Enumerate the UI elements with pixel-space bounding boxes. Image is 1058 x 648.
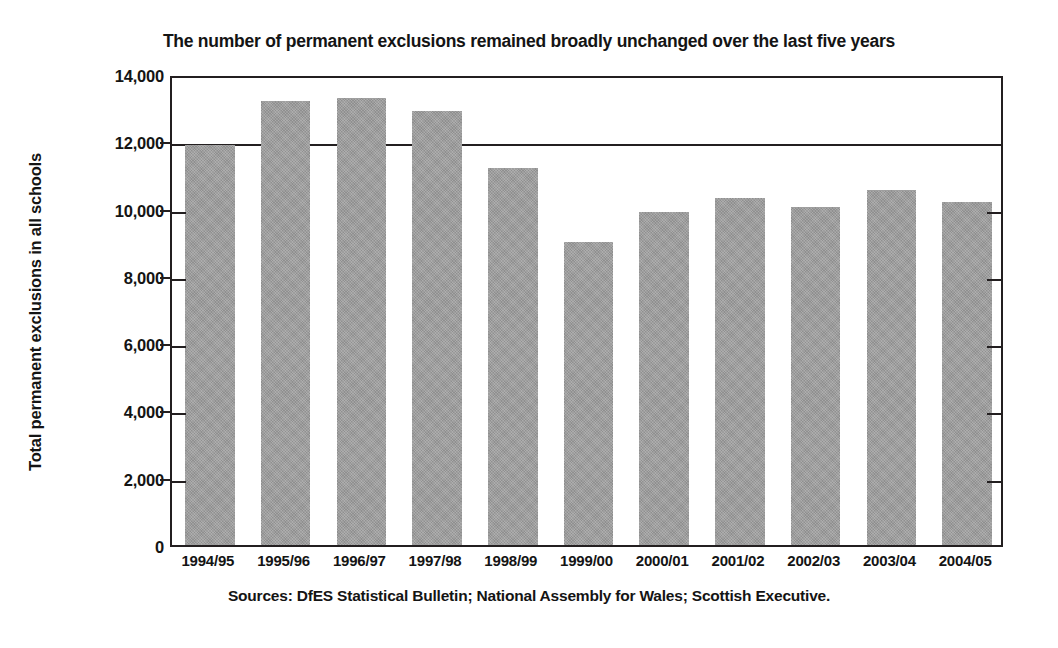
y-axis-tick-label: 0 [58,538,164,557]
x-axis-tick-label: 2000/01 [624,552,700,569]
x-axis-tick-label: 1994/95 [170,552,246,569]
chart-figure: The number of permanent exclusions remai… [0,0,1058,648]
plot-area [170,76,1003,547]
y-axis-tick-mark [160,210,171,212]
bar [639,212,689,545]
x-axis-tick-label: 2001/02 [700,552,776,569]
x-axis-tick-labels: 1994/951995/961996/971997/981998/991999/… [170,552,1003,578]
y-axis-tick-label: 10,000 [58,201,164,220]
y-axis-tick-label: 4,000 [58,403,164,422]
bar [564,242,614,545]
x-axis-tick-label: 2004/05 [927,552,1003,569]
y-axis-tick-label: 6,000 [58,336,164,355]
axis-tick-left [172,279,186,281]
y-axis-tick-mark [160,479,171,481]
bar [942,202,992,545]
y-axis-tick-mark [160,142,171,144]
x-axis-tick-label: 1997/98 [397,552,473,569]
x-axis-tick-label: 1999/00 [549,552,625,569]
axis-tick-left [172,346,186,348]
bar [791,207,841,545]
y-axis-tick-mark [160,411,171,413]
bar [412,111,462,545]
axis-tick-right [987,279,1001,281]
x-axis-tick-label: 1995/96 [246,552,322,569]
x-axis-tick-label: 2003/04 [852,552,928,569]
x-axis-tick-label: 1998/99 [473,552,549,569]
bar [337,98,387,545]
y-axis-tick-label: 8,000 [58,268,164,287]
y-axis-tick-mark [160,344,171,346]
bar [185,145,235,545]
axis-tick-right [987,212,1001,214]
bar [488,168,538,545]
y-axis-label-container: Total permanent exclusions in all school… [20,76,50,547]
axis-tick-left [172,481,186,483]
y-axis-tick-mark [160,277,171,279]
y-axis-label: Total permanent exclusions in all school… [26,153,45,471]
axis-tick-left [172,413,186,415]
axis-tick-left [172,212,186,214]
bar-series [172,78,1001,545]
bar [867,190,917,545]
x-axis-tick-label: 1996/97 [321,552,397,569]
y-axis-tick-label: 12,000 [58,134,164,153]
source-note: Sources: DfES Statistical Bulletin; Nati… [0,587,1058,605]
axis-tick-right [987,413,1001,415]
axis-tick-right [987,346,1001,348]
bar [261,101,311,545]
axis-tick-right [987,481,1001,483]
bar [715,198,765,545]
x-axis-tick-label: 2002/03 [776,552,852,569]
y-axis-tick-labels: 02,0004,0006,0008,00010,00012,00014,000 [48,0,164,648]
y-axis-tick-label: 2,000 [58,470,164,489]
y-axis-tick-label: 14,000 [58,67,164,86]
